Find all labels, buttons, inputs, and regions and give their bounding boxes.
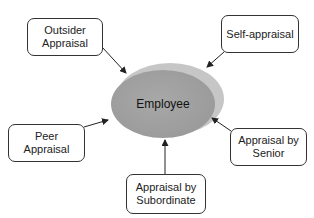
arrow-senior [212,118,231,131]
arrow-peer [84,120,108,127]
employee-label: Employee [113,97,213,111]
node-peer-appraisal: Peer Appraisal [8,124,85,162]
arrow-self [207,52,224,67]
arrow-outsider [102,47,126,73]
node-appraisal-by-senior: Appraisal by Senior [230,128,307,166]
node-appraisal-by-subordinate: Appraisal by Subordinate [126,174,206,214]
node-outsider-appraisal: Outsider Appraisal [27,18,103,56]
node-self-appraisal: Self-appraisal [221,15,299,53]
